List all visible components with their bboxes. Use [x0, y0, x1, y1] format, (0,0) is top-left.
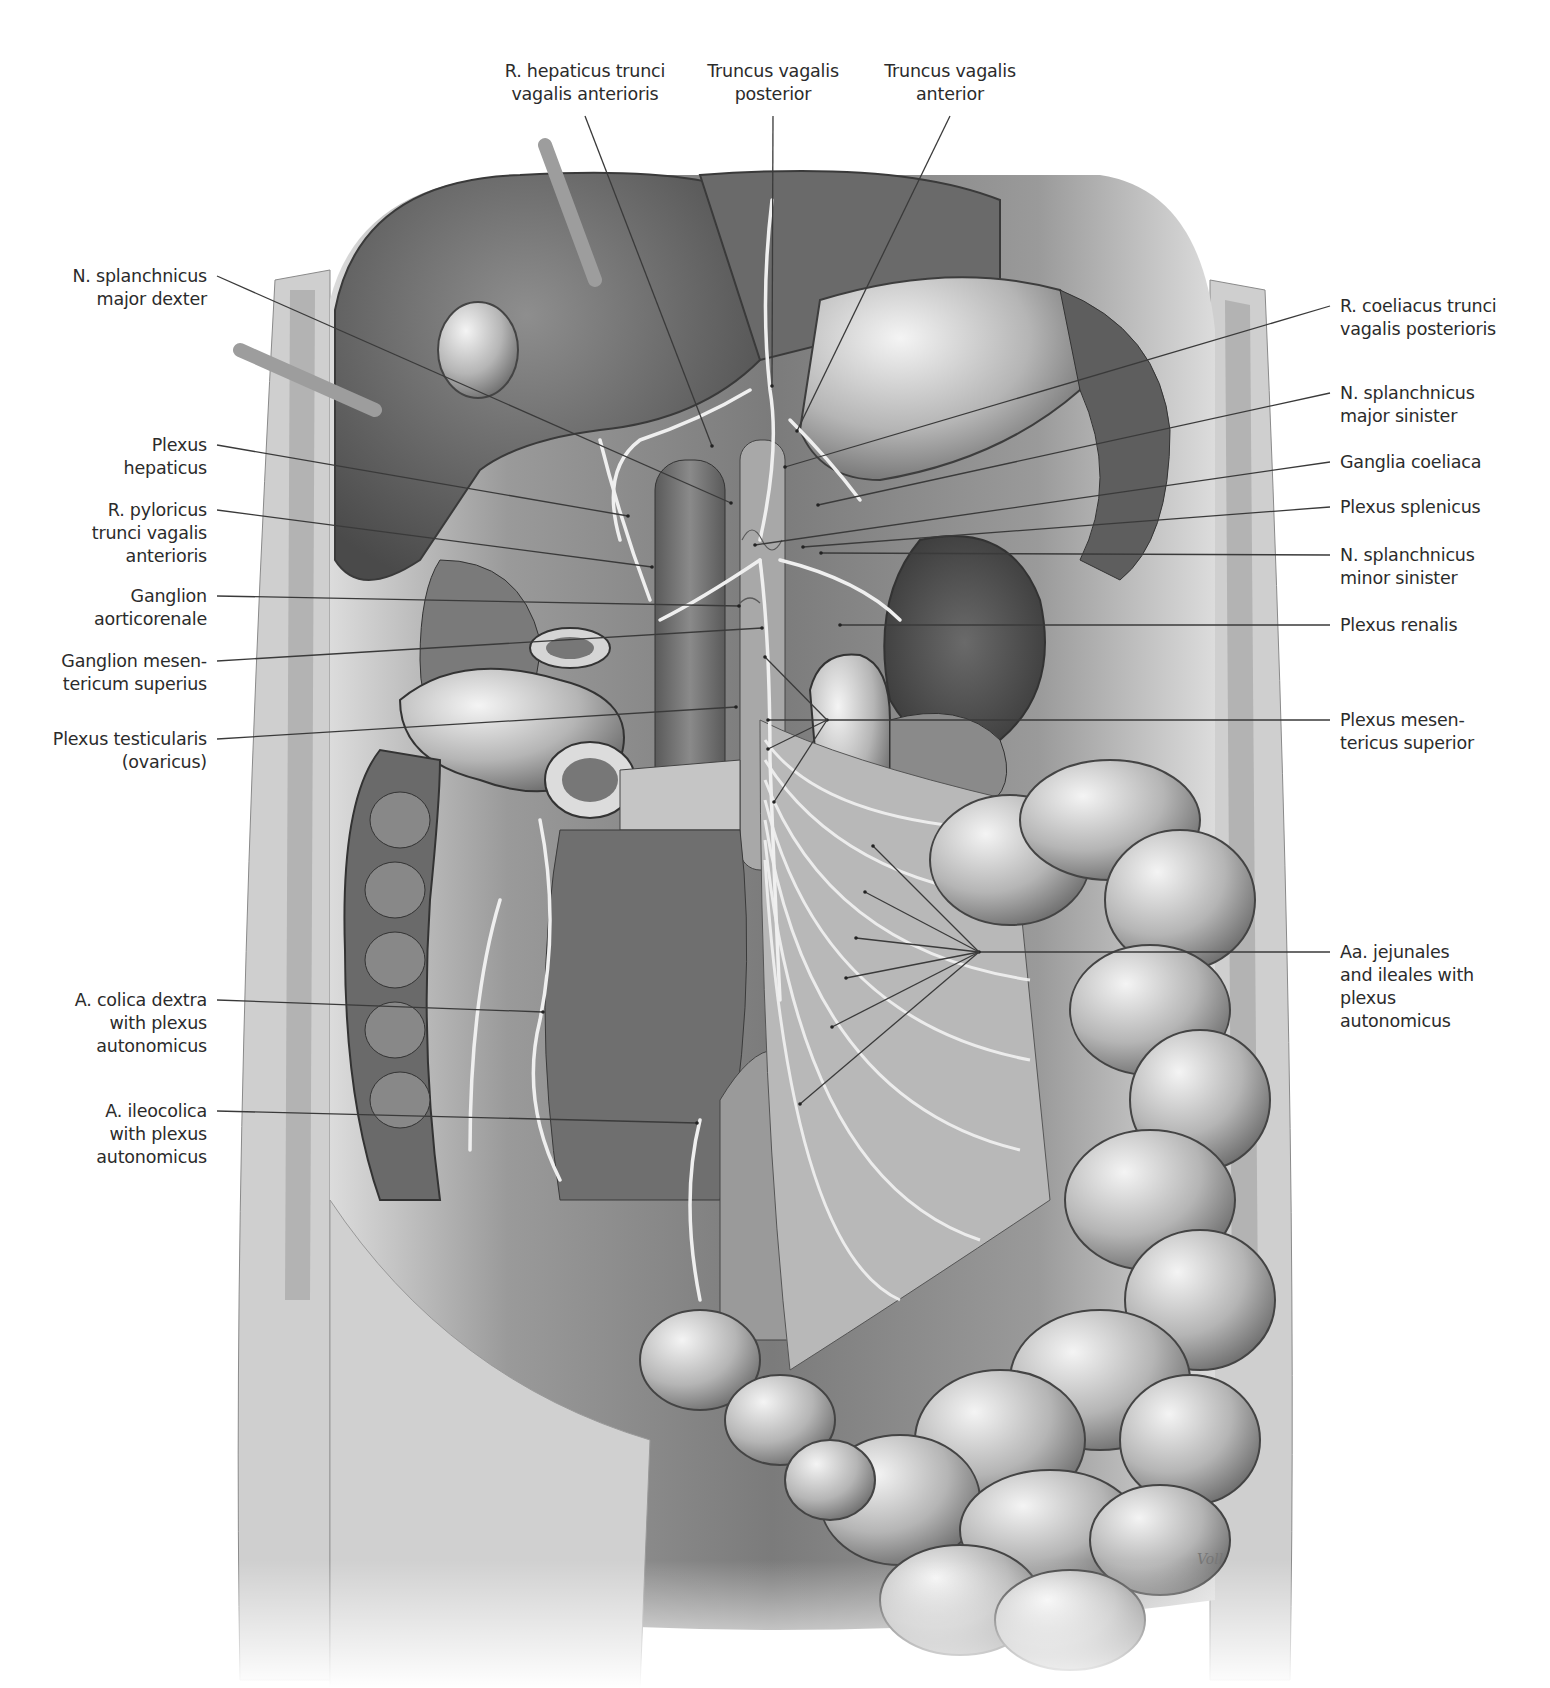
label-line: autonomicus — [75, 1035, 207, 1058]
label-line: Truncus vagalis — [707, 60, 839, 83]
label-plexus-mesentericus-superior: Plexus mesen-tericus superior — [1340, 709, 1474, 755]
label-line: A. ileocolica — [96, 1100, 207, 1123]
label-line: major sinister — [1340, 405, 1475, 428]
posterior-abdominal-wall — [545, 830, 747, 1200]
label-line: and ileales with — [1340, 964, 1474, 987]
label-line: tericus superior — [1340, 732, 1474, 755]
label-line: anterior — [884, 83, 1016, 106]
label-r-hepaticus: R. hepaticus truncivagalis anterioris — [505, 60, 665, 106]
label-line: N. splanchnicus — [1340, 382, 1475, 405]
label-ganglion-mesentericum-superius: Ganglion mesen-tericum superius — [61, 650, 207, 696]
label-line: autonomicus — [96, 1146, 207, 1169]
label-r-pyloricus: R. pyloricustrunci vagalisanterioris — [92, 499, 207, 568]
abdominal-wall — [238, 270, 330, 1680]
label-line: anterioris — [92, 545, 207, 568]
label-plexus-hepaticus: Plexushepaticus — [124, 434, 207, 480]
label-line: tericum superius — [61, 673, 207, 696]
label-ganglia-coeliaca: Ganglia coeliaca — [1340, 451, 1481, 474]
label-line: Ganglion — [94, 585, 207, 608]
label-line: hepaticus — [124, 457, 207, 480]
label-a-ileocolica: A. ileocolicawith plexusautonomicus — [96, 1100, 207, 1169]
label-line: with plexus — [96, 1123, 207, 1146]
label-line: minor sinister — [1340, 567, 1475, 590]
label-line: vagalis anterioris — [505, 83, 665, 106]
label-line: R. pyloricus — [92, 499, 207, 522]
artist-signature: Voll — [1197, 1551, 1223, 1567]
label-plexus-splenicus: Plexus splenicus — [1340, 496, 1480, 519]
label-n-splanchnicus-minor-sinister: N. splanchnicusminor sinister — [1340, 544, 1475, 590]
label-line: plexus — [1340, 987, 1474, 1010]
label-line: Ganglion mesen- — [61, 650, 207, 673]
label-line: posterior — [707, 83, 839, 106]
label-line: aorticorenale — [94, 608, 207, 631]
label-line: Plexus renalis — [1340, 614, 1457, 637]
label-line: R. coeliacus trunci — [1340, 295, 1497, 318]
label-line: Plexus mesen- — [1340, 709, 1474, 732]
gallbladder — [438, 302, 518, 398]
label-line: Plexus splenicus — [1340, 496, 1480, 519]
label-r-coeliacus: R. coeliacus truncivagalis posterioris — [1340, 295, 1497, 341]
label-line: Ganglia coeliaca — [1340, 451, 1481, 474]
label-n-splanchnicus-major-sinister: N. splanchnicusmajor sinister — [1340, 382, 1475, 428]
label-aa-jejunales-ileales: Aa. jejunalesand ileales withplexusauton… — [1340, 941, 1474, 1033]
label-line: autonomicus — [1340, 1010, 1474, 1033]
label-line: A. colica dextra — [75, 989, 207, 1012]
label-n-splanchnicus-major-dexter: N. splanchnicusmajor dexter — [72, 265, 207, 311]
label-line: N. splanchnicus — [72, 265, 207, 288]
label-line: trunci vagalis — [92, 522, 207, 545]
label-line: (ovaricus) — [53, 751, 207, 774]
label-truncus-vagalis-anterior: Truncus vagalisanterior — [884, 60, 1016, 106]
label-line: with plexus — [75, 1012, 207, 1035]
label-a-colica-dextra: A. colica dextrawith plexusautonomicus — [75, 989, 207, 1058]
label-line: N. splanchnicus — [1340, 544, 1475, 567]
label-truncus-vagalis-posterior: Truncus vagalisposterior — [707, 60, 839, 106]
label-line: Truncus vagalis — [884, 60, 1016, 83]
label-line: Plexus — [124, 434, 207, 457]
label-line: Aa. jejunales — [1340, 941, 1474, 964]
anatomy-illustration — [0, 0, 1550, 1688]
label-line: major dexter — [72, 288, 207, 311]
label-plexus-renalis: Plexus renalis — [1340, 614, 1457, 637]
label-plexus-testicularis: Plexus testicularis(ovaricus) — [53, 728, 207, 774]
label-line: Plexus testicularis — [53, 728, 207, 751]
label-ganglion-aorticorenale: Ganglionaorticorenale — [94, 585, 207, 631]
label-line: R. hepaticus trunci — [505, 60, 665, 83]
label-line: vagalis posterioris — [1340, 318, 1497, 341]
